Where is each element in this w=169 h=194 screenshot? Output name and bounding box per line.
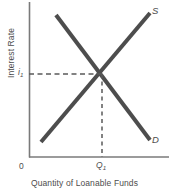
y-axis-title: Interest Rate (6, 0, 16, 108)
demand-curve-label: D (152, 134, 159, 145)
equilibrium-quantity-subscript: 1 (103, 164, 106, 171)
origin-label: 0 (19, 161, 24, 171)
supply-curve-label: S (152, 5, 158, 16)
demand-curve (56, 15, 150, 140)
supply-curve (41, 13, 150, 142)
equilibrium-quantity-base: Q (96, 160, 103, 170)
x-axis-title: Quantity of Loanable Funds (0, 178, 169, 188)
loanable-funds-chart: Quantity of Loanable Funds Interest Rate… (0, 0, 169, 194)
equilibrium-rate-subscript: 1 (20, 71, 23, 78)
equilibrium-rate-label: i1 (18, 67, 23, 77)
equilibrium-quantity-label: Q1 (96, 160, 106, 170)
chart-plot-area (0, 0, 169, 194)
